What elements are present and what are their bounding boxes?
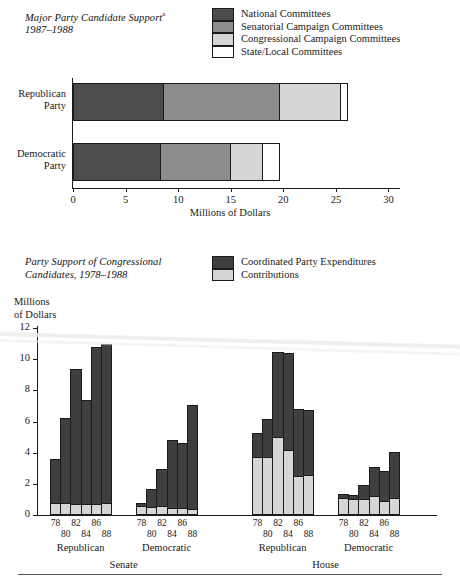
chart2-legend-item: Coordinated Party Expenditures (212, 256, 376, 269)
chart1-x-tick-label: 25 (321, 194, 351, 205)
chart2-year-label: 82 (267, 518, 289, 528)
chart2-segment-contributions (389, 498, 400, 515)
chart2-y-tick-label: 8 (10, 383, 30, 394)
chart1-segment (160, 143, 230, 181)
chart1-legend: National CommitteesSenatorial Campaign C… (212, 8, 400, 58)
legend-swatch-1 (212, 256, 234, 269)
chart2-year-label: 84 (277, 529, 299, 539)
chart1-x-tick (126, 188, 127, 192)
chart1-bar-republican-party (73, 83, 348, 121)
chart1-title: Major Party Candidate Supporta 1987–1988 (25, 8, 165, 37)
chart1-legend-label: Congressional Campaign Committees (241, 33, 400, 46)
chart1-x-tick-label: 15 (216, 194, 246, 205)
figure-page: Major Party Candidate Supporta 1987–1988… (0, 0, 460, 584)
chart2-y-tick-label: 0 (10, 508, 30, 519)
legend-swatch-2 (212, 21, 234, 34)
chart2-year-label: 80 (257, 529, 279, 539)
chart1-x-tick-label: 5 (111, 194, 141, 205)
chart2-segment-contributions (101, 503, 112, 515)
chart1-category-label: RepublicanParty (0, 88, 66, 112)
chart1-x-tick-label: 0 (58, 194, 88, 205)
chart2-year-label: 80 (141, 529, 163, 539)
chart1-x-tick (283, 188, 284, 192)
chart2-year-label: 84 (161, 529, 183, 539)
chart2-year-label: 84 (363, 529, 385, 539)
chart1-legend-item: Congressional Campaign Committees (212, 33, 400, 46)
legend-swatch-2 (212, 269, 234, 282)
chart2-x-axis-line (37, 515, 437, 516)
chart2-year-label: 86 (287, 518, 309, 528)
chart2-segment-coordinated (187, 405, 198, 510)
chart2-group-label: Republican (238, 542, 327, 553)
legend-swatch-4 (212, 46, 234, 59)
chart2-y-tick-label: 12 (10, 321, 30, 332)
chart2-legend: Coordinated Party ExpendituresContributi… (212, 256, 376, 281)
chart2-legend-label: Contributions (241, 269, 299, 282)
legend-swatch-1 (212, 8, 234, 21)
chart2-year-label: 82 (353, 518, 375, 528)
chart2-y-tick-label: 6 (10, 415, 30, 426)
chart2-segment-contributions (303, 475, 314, 515)
chart2-legend-label: Coordinated Party Expenditures (241, 256, 376, 269)
chart2-year-label: 80 (343, 529, 365, 539)
chart2-legend-item: Contributions (212, 269, 376, 282)
chart1-category-label: DemocraticParty (0, 148, 66, 172)
chart1-x-tick-label: 20 (268, 194, 298, 205)
chart1-legend-item: National Committees (212, 8, 400, 21)
chart1-category-label-line2: Party (44, 100, 66, 111)
chart2-bar (389, 452, 400, 515)
chart1-x-tick (388, 188, 389, 192)
chart2-title-line1: Party Support of Congressional (25, 256, 162, 267)
chart2-year-label: 78 (333, 518, 355, 528)
chart2-year-label: 78 (45, 518, 67, 528)
chart2-bar (303, 410, 314, 515)
chart2-group-label: Democratic (324, 542, 413, 553)
chart1-x-tick-label: 10 (163, 194, 193, 205)
chart1-segment (279, 83, 341, 121)
chart1-legend-label: National Committees (241, 8, 331, 21)
chart2-y-tick-label: 4 (10, 446, 30, 457)
chart2-y-axis-title: Millions of Dollars (14, 296, 56, 321)
chart2-chamber-label: Senate (50, 559, 197, 570)
chart2-year-label: 88 (96, 529, 118, 539)
chart2-year-label: 78 (247, 518, 269, 528)
chart2-y-axis-title-line1: Millions (14, 296, 50, 307)
chart1-title-superscript: a (162, 10, 165, 17)
chart2-year-label: 88 (182, 529, 204, 539)
chart2-year-label: 88 (298, 529, 320, 539)
chart1-bar-democratic-party (73, 143, 280, 181)
chart1-x-tick (178, 188, 179, 192)
chart2-y-axis-title-line2: of Dollars (14, 309, 56, 320)
chart1-title-main: Major Party Candidate Support (25, 12, 162, 23)
chart1-legend-item: State/Local Committees (212, 46, 400, 59)
chart1-category-label-line1: Republican (18, 88, 66, 99)
chart2-y-tick-label: 10 (10, 352, 30, 363)
chart2-y-tick (33, 515, 38, 516)
chart1-legend-label: State/Local Committees (241, 46, 342, 59)
chart-party-support-congressional-candidates: Party Support of Congressional Candidate… (0, 248, 460, 584)
chart2-title: Party Support of Congressional Candidate… (25, 256, 162, 281)
chart1-legend-item: Senatorial Campaign Committees (212, 21, 400, 34)
chart2-year-label: 78 (131, 518, 153, 528)
chart1-x-tick (73, 188, 74, 192)
chart2-year-label: 80 (55, 529, 77, 539)
chart2-year-label: 86 (373, 518, 395, 528)
chart1-segment (340, 83, 348, 121)
chart1-segment (262, 143, 280, 181)
chart2-year-label: 84 (75, 529, 97, 539)
chart2-year-label: 86 (171, 518, 193, 528)
chart2-year-label: 82 (65, 518, 87, 528)
chart2-y-tick-label: 2 (10, 477, 30, 488)
chart2-chamber-label: House (252, 559, 399, 570)
chart2-segment-contributions (187, 509, 198, 515)
chart1-segment (73, 143, 161, 181)
chart2-group-label: Republican (36, 542, 125, 553)
chart-major-party-candidate-support: Major Party Candidate Supporta 1987–1988… (0, 0, 460, 228)
chart1-x-tick (231, 188, 232, 192)
chart1-legend-label: Senatorial Campaign Committees (241, 21, 383, 34)
footer-rule (18, 574, 442, 575)
chart2-segment-coordinated (101, 344, 112, 505)
chart2-group-label: Democratic (122, 542, 211, 553)
chart1-title-years: 1987–1988 (25, 24, 73, 35)
chart2-segment-coordinated (389, 452, 400, 499)
